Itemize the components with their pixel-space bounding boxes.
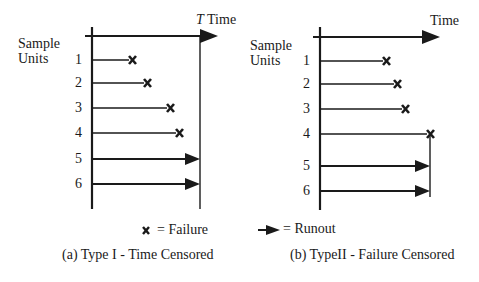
runout-arrow-icon [185, 153, 200, 165]
panel-b-time-arrow-icon [422, 30, 440, 44]
panel-b-y-label-line2: Units [250, 53, 292, 68]
panel-b-caption: (b) TypeII - Failure Censored [290, 248, 454, 262]
panel-a-unit-label: 3 [75, 101, 82, 115]
failure-x-icon [176, 129, 183, 137]
panel-a-unit-label: 1 [75, 53, 82, 67]
legend-runout-arrow-icon [258, 225, 280, 235]
panel-a-time-label: Time [207, 12, 236, 27]
panel-b-y-label-line1: Sample [250, 38, 292, 53]
panel-b-unit-label: 3 [303, 102, 310, 116]
panel-a-caption: (a) Type I - Time Censored [62, 248, 214, 262]
panel-b-unit-label: 2 [303, 77, 310, 91]
panel-b-y-axis-label: Sample Units [250, 38, 292, 68]
panel-a-unit-label: 5 [75, 152, 82, 166]
panel-a-plot [85, 27, 218, 209]
failure-x-icon [167, 104, 174, 112]
panel-a-y-label-line1: Sample [18, 36, 60, 51]
panel-a-x-axis-label: T Time [196, 13, 236, 27]
panel-a-unit-label: 2 [75, 76, 82, 90]
legend-runout-label: = Runout [283, 222, 336, 236]
panel-b-time-label: Time [430, 14, 459, 28]
panel-a-y-axis-label: Sample Units [18, 36, 60, 66]
legend-failure-label: = Failure [157, 223, 208, 237]
failure-x-icon [129, 56, 136, 64]
runout-arrow-icon [415, 160, 430, 172]
failure-x-icon [144, 79, 151, 87]
panel-a-unit-label: 4 [75, 126, 82, 140]
runout-arrow-icon [415, 185, 430, 197]
panel-a-T-symbol: T [196, 12, 204, 27]
panel-a-y-label-line2: Units [18, 51, 60, 66]
panel-a-unit-label: 6 [75, 177, 82, 191]
runout-arrow-icon [185, 178, 200, 190]
failure-x-icon [402, 105, 409, 113]
failure-x-icon [394, 80, 401, 88]
panel-b-plot [313, 27, 440, 210]
panel-b-unit-label: 5 [303, 159, 310, 173]
panel-b-unit-label: 1 [303, 54, 310, 68]
legend-failure-x-icon [143, 227, 149, 234]
failure-x-icon [383, 57, 390, 65]
censoring-diagram [0, 0, 479, 282]
panel-a-time-arrow-icon [200, 29, 218, 43]
panel-b-unit-label: 6 [303, 184, 310, 198]
panel-b-unit-label: 4 [303, 127, 310, 141]
